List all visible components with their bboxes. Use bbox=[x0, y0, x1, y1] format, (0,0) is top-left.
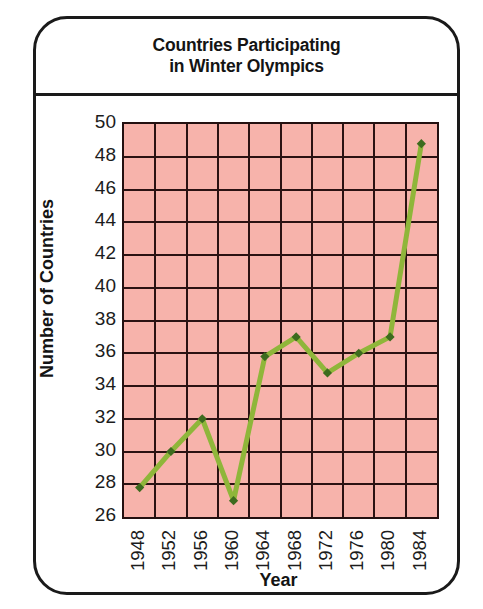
y-tick-label: 30 bbox=[64, 440, 116, 459]
y-tick-label: 50 bbox=[64, 112, 116, 131]
chart-figure: Countries Participating in Winter Olympi… bbox=[0, 0, 483, 609]
y-axis-title: Number of Countries bbox=[37, 169, 58, 409]
chart-title-line-1: Countries Participating bbox=[153, 35, 341, 56]
y-tick-label: 40 bbox=[64, 276, 116, 295]
y-axis-tick-labels: 50484644424038363432302826 bbox=[62, 122, 116, 515]
y-tick-label: 46 bbox=[64, 178, 116, 197]
y-tick-label: 36 bbox=[64, 341, 116, 360]
y-tick-label: 38 bbox=[64, 309, 116, 328]
y-tick-label: 44 bbox=[64, 210, 116, 229]
y-tick-label: 28 bbox=[64, 472, 116, 491]
y-tick-label: 48 bbox=[64, 145, 116, 164]
plot-area bbox=[122, 122, 439, 519]
chart-title-line-2: in Winter Olympics bbox=[169, 56, 324, 77]
data-point-marker bbox=[417, 139, 426, 148]
plot-grid bbox=[124, 124, 437, 517]
chart-title: Countries Participating in Winter Olympi… bbox=[36, 19, 457, 96]
x-axis-title: Year bbox=[122, 570, 435, 591]
y-tick-label: 42 bbox=[64, 243, 116, 262]
y-tick-label: 34 bbox=[64, 374, 116, 393]
data-series-line bbox=[124, 124, 437, 517]
y-tick-label: 32 bbox=[64, 407, 116, 426]
series-polyline bbox=[140, 144, 422, 501]
